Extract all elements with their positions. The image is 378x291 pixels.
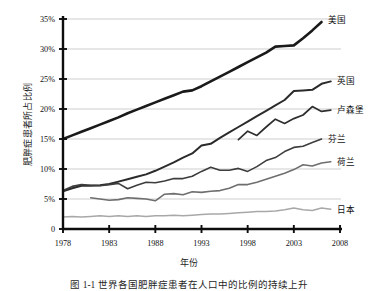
series-label-4: 荷兰 — [337, 156, 355, 167]
series-line-2 — [238, 107, 330, 140]
series-label-1: 英国 — [337, 75, 355, 86]
series-line-5 — [63, 208, 331, 217]
y-tick-label: 20% — [40, 105, 55, 114]
x-tick-label: 1983 — [101, 239, 117, 248]
series-group — [63, 22, 331, 217]
x-tick-label: 2003 — [286, 239, 302, 248]
y-tick-label: 30% — [40, 45, 55, 54]
x-tick-label: 2008 — [332, 239, 348, 248]
y-tick-label: 10% — [40, 165, 55, 174]
series-label-3: 芬兰 — [328, 133, 346, 144]
x-axis-title: 年份 — [0, 256, 378, 269]
series-line-3 — [63, 139, 322, 191]
series-line-0 — [63, 22, 322, 139]
x-tick-label: 1978 — [55, 239, 71, 248]
y-tick-label: 15% — [40, 135, 55, 144]
x-tick-label: 1993 — [193, 239, 209, 248]
y-tick-label: 5% — [44, 195, 55, 204]
series-label-5: 日本 — [337, 204, 355, 215]
y-tick-label: 0 — [51, 225, 55, 234]
y-tick-label: 25% — [40, 75, 55, 84]
y-tick-label: 35% — [40, 15, 55, 24]
series-label-0: 美国 — [328, 14, 346, 25]
x-tick-label: 1998 — [239, 239, 255, 248]
y-axis-title: 肥胖症患者所占比例 — [21, 50, 34, 200]
figure-caption: 图 1-1 世界各国肥胖症患者在人口中的比例的持续上升 — [0, 277, 378, 291]
series-labels: 美国英国卢森堡芬兰荷兰日本 — [328, 14, 364, 215]
x-tick-label: 1988 — [147, 239, 163, 248]
series-label-2: 卢森堡 — [337, 104, 364, 115]
series-line-1 — [63, 81, 331, 191]
